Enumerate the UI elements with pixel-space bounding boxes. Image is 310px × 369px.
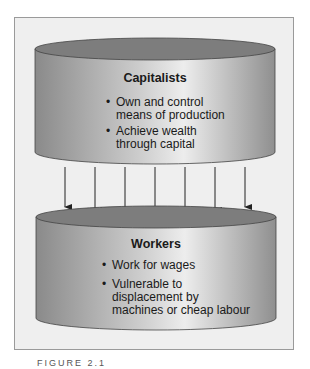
figure-caption: FIGURE 2.1 (37, 358, 106, 368)
capitalists-bullet-1: •Own and controlmeans of production (106, 96, 225, 122)
capitalists-title: Capitalists (105, 71, 205, 85)
workers-title: Workers (106, 237, 206, 251)
workers-bullet-1: •Work for wages (102, 259, 195, 272)
arrows-down (65, 167, 245, 212)
capitalists-bullet-2: •Achieve wealththrough capital (106, 125, 197, 151)
workers-bullet-2: •Vulnerable todisplacement bymachines or… (102, 278, 250, 317)
